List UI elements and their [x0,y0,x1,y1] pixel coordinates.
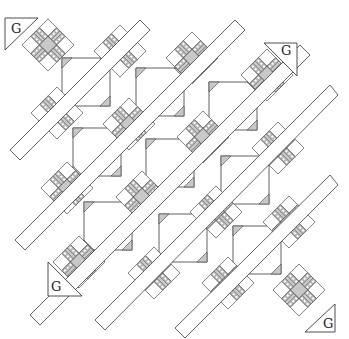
quilt-assembly-diagram: GGGG [0,0,349,339]
corner-label: G [11,21,21,36]
corner-label: G [281,43,291,58]
corner-label: G [51,279,61,294]
corner-label: G [323,316,333,331]
corner-triangle-g: G [305,304,335,332]
